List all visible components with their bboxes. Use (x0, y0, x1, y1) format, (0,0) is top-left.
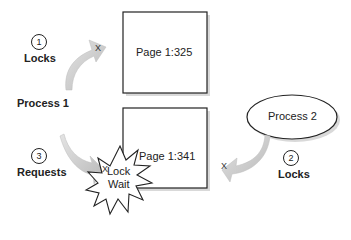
process-1-label: Process 1 (17, 97, 69, 109)
step-3-label: Requests (17, 166, 67, 178)
lock-marker-3: X (102, 164, 108, 174)
step-2-label: Locks (278, 168, 310, 180)
process-2-label: Process 2 (268, 110, 317, 122)
arrow-lock-page-341 (222, 135, 270, 182)
page-325-label: Page 1:325 (136, 46, 192, 58)
lock-wait-line2: Wait (108, 178, 130, 190)
lock-marker-2: X (221, 161, 227, 171)
lock-marker-1: X (95, 43, 101, 53)
lock-wait-line1: Lock (107, 165, 130, 177)
step-2-badge: 2 (283, 150, 299, 166)
step-3-badge: 3 (31, 148, 47, 164)
page-341-label: Page 1:341 (139, 150, 195, 162)
step-1-label: Locks (24, 52, 56, 64)
step-1-badge: 1 (31, 34, 47, 50)
